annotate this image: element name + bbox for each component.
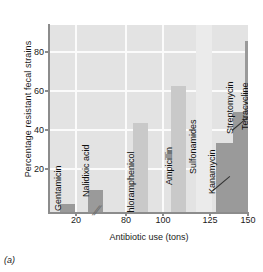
gridline-y-40 (50, 129, 248, 131)
x-axis-title: Antibiotic use (tons) (50, 232, 248, 242)
bar-label-sulfonamides: Sulfonamides (189, 119, 198, 174)
x-tick-label-100: 100 (143, 216, 183, 225)
y-axis-line (48, 24, 50, 213)
plot-area: Gentamicin Nalidixic acid Chloramphenico… (50, 25, 248, 212)
bar-label-ampicillin: Ampicillin (165, 147, 174, 185)
panel-caption: (a) (4, 255, 15, 265)
y-tick-label-80: 80 (18, 48, 44, 57)
gridline-x-20 (75, 25, 77, 212)
figure-panel-a: Percentage resistant fecal strains 80 60… (0, 0, 263, 272)
x-tick-label-80: 80 (106, 216, 146, 225)
y-tick-label-40: 40 (18, 126, 44, 135)
bar-label-tetracycline: Tetracycline (241, 82, 248, 130)
x-axis-line (48, 212, 249, 214)
bar-label-chloramphenicol: Chloramphenicol (127, 151, 136, 212)
axis-break-marker: // (94, 203, 110, 219)
x-tick-label-20: 20 (56, 216, 96, 225)
gridline-y-60 (50, 90, 248, 92)
y-tick-label-20: 20 (18, 165, 44, 174)
bar-label-gentamicin: Gentamicin (54, 165, 63, 211)
bar-label-nalidixic-acid: Nalidixic acid (82, 144, 91, 197)
gridline-y-80 (50, 51, 248, 53)
bar-kanamycin (216, 143, 233, 212)
x-tick-label-125: 125 (190, 216, 230, 225)
bar-label-streptomycin: Streptomycin (226, 81, 235, 134)
axis-break-symbol: // (92, 203, 113, 218)
x-tick-label-150: 150 (228, 216, 263, 225)
y-tick-label-60: 60 (18, 87, 44, 96)
